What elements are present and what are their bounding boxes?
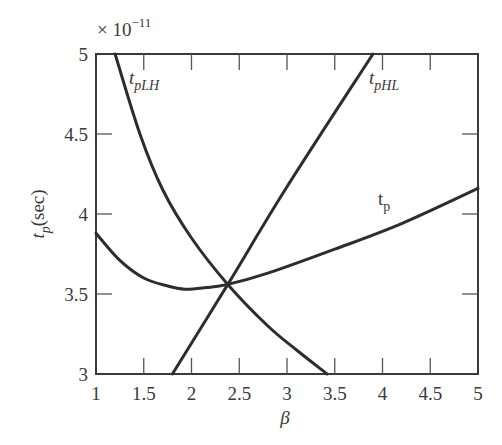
y-axis-label: tp(sec) (27, 189, 53, 238)
y-tick-label: 3.5 (64, 284, 88, 305)
series-tphl-line (172, 54, 373, 374)
x-tick-label: 1 (91, 383, 101, 404)
x-tick-label: 4 (378, 383, 388, 404)
y-tick-labels: 33.544.55 (64, 44, 88, 385)
x-tick-label: 2 (187, 383, 197, 404)
y-tick-label: 5 (79, 44, 89, 65)
label-tphl: tpHL (369, 67, 399, 93)
x-tick-label: 3 (282, 383, 292, 404)
series-tp-line (96, 188, 478, 289)
line-chart: × 10−11 11.522.533.544.55 33.544.55 tp(s… (0, 0, 502, 445)
x-tick-label: 1.5 (132, 383, 156, 404)
x-tick-labels: 11.522.533.544.55 (91, 383, 483, 404)
x-tick-label: 3.5 (323, 383, 347, 404)
label-tplh: tpLH (129, 67, 160, 93)
x-axis-label: β (279, 407, 290, 428)
label-tp: tp (378, 188, 390, 214)
y-tick-label: 4 (79, 204, 89, 225)
x-tick-label: 4.5 (418, 383, 442, 404)
y-tick-label: 4.5 (64, 124, 88, 145)
y-tick-label: 3 (79, 364, 89, 385)
data-curves (96, 54, 478, 374)
y-multiplier: × 10−11 (97, 15, 151, 40)
series-tplh-line (115, 54, 327, 374)
x-tick-label: 2.5 (227, 383, 251, 404)
x-tick-label: 5 (473, 383, 483, 404)
